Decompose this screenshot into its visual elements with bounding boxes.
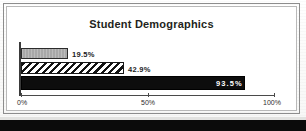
chart-screenshot: Student Demographics 19.5% 42.9% 93.5% 0… <box>0 0 306 131</box>
chart-title: Student Demographics <box>6 18 297 30</box>
scan-bottom-band <box>0 120 306 131</box>
x-axis-tick-0 <box>21 93 22 97</box>
bar-label-series-2: 42.9% <box>128 65 151 74</box>
bar-series-1 <box>21 48 68 59</box>
x-axis-tick-label-0: 0% <box>17 99 27 106</box>
bar-label-series-3: 93.5% <box>216 79 243 88</box>
x-axis-tick-label-100: 100% <box>263 99 281 106</box>
x-axis-tick-label-50: 50% <box>141 99 155 106</box>
x-axis-tick-50 <box>148 93 149 97</box>
bar-series-2 <box>21 62 124 74</box>
bar-label-series-1: 19.5% <box>72 50 95 59</box>
x-axis-tick-100 <box>274 93 275 97</box>
bar-series-3 <box>21 76 245 90</box>
